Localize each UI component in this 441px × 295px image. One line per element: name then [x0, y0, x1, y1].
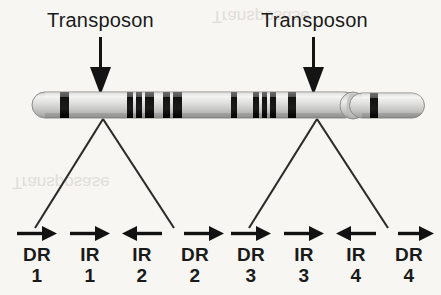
repeat-label-ir-2: IR [119, 245, 165, 264]
repeat-label-ir-4: IR [333, 245, 379, 264]
transposon-label-right: Transposon [261, 10, 368, 30]
repeat-number-dr-2: 2 [172, 266, 218, 285]
chromosome-left-arm [32, 91, 358, 119]
repeat-arrow-ir-1 [70, 226, 110, 241]
repeat-arrow-dr-3 [231, 226, 271, 241]
repeat-label-ir-3: IR [281, 245, 327, 264]
repeat-number-dr-4: 4 [386, 266, 432, 285]
repeat-arrow-dr-2 [184, 226, 224, 241]
repeat-number-dr-1: 1 [14, 266, 60, 285]
repeat-label-dr-2: DR [172, 245, 218, 264]
repeat-label-dr-4: DR [386, 245, 432, 264]
figure-canvas: Transposase Transposase [0, 0, 441, 295]
repeat-number-ir-1: 1 [67, 266, 113, 285]
repeat-label-dr-3: DR [228, 245, 274, 264]
expansion-lines-left [35, 119, 174, 228]
transposon-arrow-right [303, 37, 324, 95]
chromosome-right-arm [350, 92, 425, 120]
transposon-arrow-left [90, 37, 111, 95]
repeat-arrow-dr-4 [398, 226, 434, 241]
repeat-number-ir-2: 2 [119, 266, 165, 285]
repeat-number-ir-3: 3 [281, 266, 327, 285]
repeat-arrow-ir-2 [122, 226, 162, 241]
repeat-label-dr-1: DR [14, 245, 60, 264]
repeat-number-ir-4: 4 [333, 266, 379, 285]
transposon-label-left: Transposon [47, 10, 154, 30]
expansion-lines-right [249, 119, 388, 228]
repeat-number-dr-3: 3 [228, 266, 274, 285]
repeat-label-ir-1: IR [67, 245, 113, 264]
repeat-arrow-ir-3 [284, 226, 324, 241]
repeat-arrow-dr-1 [17, 226, 57, 241]
repeat-arrow-ir-4 [336, 226, 376, 241]
